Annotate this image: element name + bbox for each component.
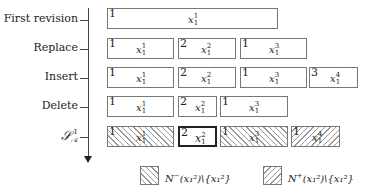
segment-box-focus: 2 x21 [178,126,217,147]
segment-id: 1 [109,66,116,79]
segment-box-neighborhood-plus: 1 x41 [291,126,340,147]
segment-box: 1 x31 [240,38,307,59]
segment-id: 1 [109,95,116,108]
tick-insert [80,78,88,79]
segment-id: 1 [222,125,229,138]
legend-swatch-n-plus [263,166,282,185]
segment-variable: x11 [136,131,146,145]
tick-sa1 [80,137,88,138]
segment-box: 1 x31 [240,67,307,88]
segment-box: 2 x21 [178,67,236,88]
segment-variable: x21 [195,132,206,146]
segment-box: 1 x11 [107,38,174,59]
segment-box: 2 x21 [178,96,217,117]
segment-box-neighborhood-minus: 1 x11 [107,126,174,147]
segment-variable: x41 [330,72,340,86]
timeline-arrow-down-icon [84,156,92,163]
legend-label-n-minus: N−(x₁²)\{x₁²} [165,169,231,186]
segment-id: 3 [311,66,318,79]
segment-id: 1 [109,125,116,138]
segment-variable: x31 [249,131,259,145]
segment-id: 1 [242,37,249,50]
row-label-sa1: 𝒮1𝒜 [61,128,78,144]
segment-id: 1 [222,95,229,108]
tick-replace [80,49,88,50]
row-label-insert: Insert [45,70,78,84]
segment-variable: x31 [269,72,279,86]
row-label-replace: Replace [33,41,78,55]
segment-id: 2 [180,66,187,79]
segment-box: 2 x21 [178,38,236,59]
segment-variable: x11 [136,101,146,115]
segment-variable: x21 [195,101,205,115]
tick-first-revision [80,20,88,21]
timeline-axis [88,8,89,158]
row-label-first-revision: First revision [4,12,78,26]
segment-id: 1 [242,66,249,79]
legend-swatch-n-minus [140,166,159,185]
segment-id: 1 [109,37,116,50]
segment-variable: x31 [249,101,259,115]
segment-box: 1 x31 [220,96,288,117]
segment-id: 2 [180,37,187,50]
row-label-delete: Delete [42,99,78,113]
segment-id: 2 [181,126,188,139]
segment-box: 1 x11 [107,96,174,117]
segment-variable: x21 [201,72,211,86]
segment-box: 1 x11 [107,8,278,29]
segment-id: 1 [109,7,116,20]
segment-variable: x11 [136,43,146,57]
segment-variable: x21 [201,43,211,57]
legend-label-n-plus: N+(x₁²)\{x₁²} [288,169,354,186]
segment-box-neighborhood-minus: 1 x31 [220,126,288,147]
segment-id: 1 [293,125,300,138]
segment-variable: x11 [136,72,146,86]
segment-variable: x41 [312,131,322,145]
segment-variable: x31 [269,43,279,57]
segment-variable: x11 [188,13,198,27]
segment-box: 3 x41 [309,67,358,88]
segment-box: 1 x11 [107,67,174,88]
segment-id: 2 [180,95,187,108]
tick-delete [80,107,88,108]
